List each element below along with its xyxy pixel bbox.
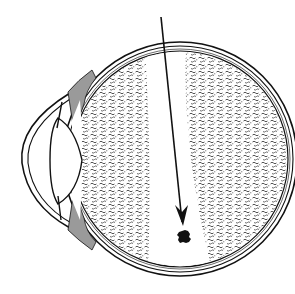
- eye-cross-section-drawing: [0, 0, 295, 294]
- eye-diagram: [0, 0, 295, 294]
